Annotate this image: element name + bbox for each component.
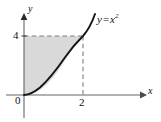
- y-tick-label-4: 4: [13, 30, 19, 41]
- y-axis-arrow-icon: [21, 13, 28, 20]
- y-axis-label: y: [28, 4, 32, 14]
- x-axis-label: x: [148, 86, 152, 96]
- origin-label: 0: [15, 95, 21, 106]
- curve-label-operator: =: [102, 13, 110, 25]
- x-axis-arrow-icon: [140, 92, 147, 99]
- curve-equation-label: y=x2: [97, 13, 119, 25]
- x-tick-label-2: 2: [79, 97, 85, 108]
- area-under-parabola-figure: 4 0 2 y x y=x2: [0, 0, 161, 122]
- curve-label-exponent: 2: [115, 12, 119, 20]
